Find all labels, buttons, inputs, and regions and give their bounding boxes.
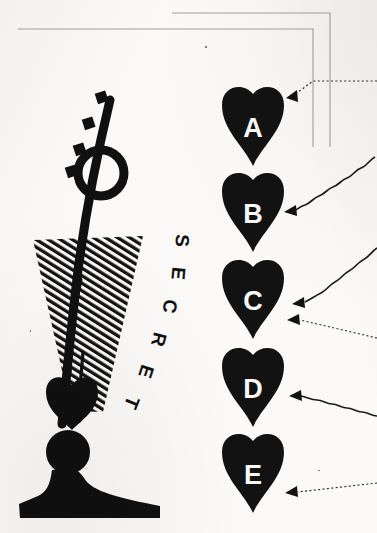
arrow-to-heart-b: [284, 157, 375, 216]
arrow-to-heart-c-dotted: [287, 314, 377, 338]
arrow-to-heart-d: [289, 390, 377, 416]
arrow-to-heart-a: [286, 81, 377, 102]
page-canvas: S E C R E T A B C D E: [0, 0, 377, 533]
leader-arrows: [0, 0, 377, 533]
arrow-to-heart-e: [285, 483, 377, 497]
arrow-to-heart-c-wavy: [292, 248, 377, 308]
